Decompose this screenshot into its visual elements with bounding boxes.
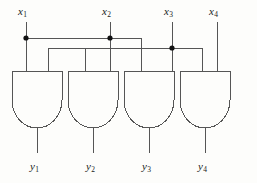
circuit-svg — [0, 0, 257, 183]
junction-dot-x1 — [23, 35, 28, 40]
input-label-x3: x3 — [164, 6, 173, 17]
junction-dot-x2 — [107, 35, 112, 40]
output-label-y1: y1 — [30, 161, 39, 172]
circuit-diagram-canvas: x1 x2 x3 x4 y1 y2 y3 y4 — [0, 0, 257, 183]
input-label-x2: x2 — [102, 6, 111, 17]
junction-dot-x3 — [169, 45, 174, 50]
input-label-x4: x4 — [209, 6, 218, 17]
output-label-y3: y3 — [142, 161, 151, 172]
and-gate-4-body — [180, 71, 230, 128]
input-label-x1: x1 — [18, 6, 27, 17]
output-label-y2: y2 — [86, 161, 95, 172]
and-gate-1-body — [12, 71, 62, 128]
and-gate-2-body — [68, 71, 118, 128]
and-gate-3-body — [124, 71, 174, 128]
output-label-y4: y4 — [198, 161, 207, 172]
